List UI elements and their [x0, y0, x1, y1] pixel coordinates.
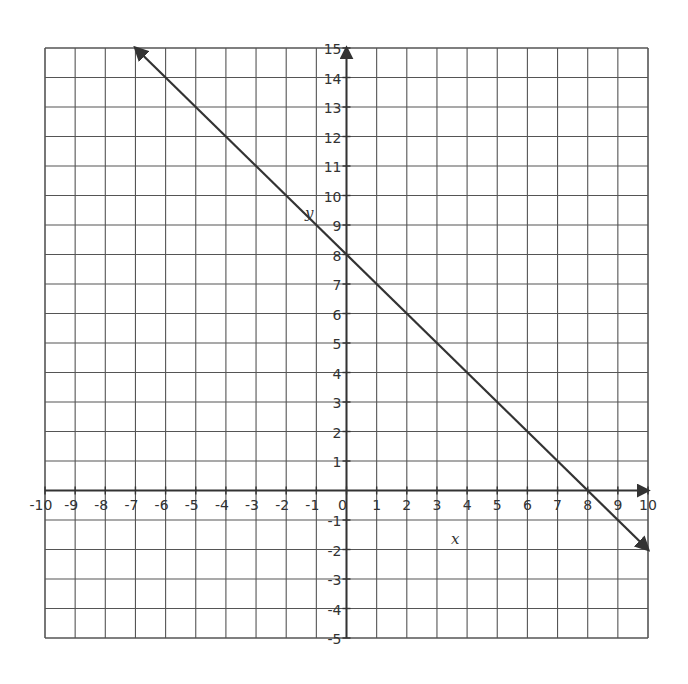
y-tick-label: 13 — [324, 100, 342, 116]
origin-label: 0 — [338, 497, 347, 513]
y-tick-label: -1 — [328, 513, 342, 529]
x-tick-label: 3 — [432, 497, 441, 513]
x-tick-label: -10 — [30, 497, 53, 513]
x-tick-label: -5 — [185, 497, 199, 513]
y-tick-label: 2 — [333, 425, 342, 441]
y-tick-label: -3 — [328, 572, 342, 588]
y-tick-label: 15 — [324, 41, 342, 57]
y-tick-label: 5 — [333, 336, 342, 352]
x-tick-label: 9 — [613, 497, 622, 513]
y-tick-label: 10 — [324, 189, 342, 205]
x-tick-label: -9 — [64, 497, 78, 513]
x-tick-label: -7 — [124, 497, 138, 513]
x-axis-tick-labels: -10-9-8-7-6-5-4-3-2-1123456789100 — [30, 497, 657, 513]
x-tick-label: 4 — [463, 497, 472, 513]
x-tick-label: -1 — [305, 497, 319, 513]
y-tick-label: 11 — [324, 159, 342, 175]
y-tick-label: 8 — [333, 248, 342, 264]
x-axis-label: x — [451, 530, 460, 548]
y-tick-label: -2 — [328, 543, 342, 559]
y-tick-label: 3 — [333, 395, 342, 411]
y-tick-label: 4 — [333, 366, 342, 382]
x-tick-label: -6 — [155, 497, 169, 513]
y-tick-label: 1 — [333, 454, 342, 470]
y-tick-label: -5 — [328, 631, 342, 647]
y-tick-label: 12 — [324, 130, 342, 146]
x-tick-label: 10 — [639, 497, 657, 513]
y-tick-label: 7 — [333, 277, 342, 293]
x-tick-label: 5 — [493, 497, 502, 513]
plotted-line — [135, 48, 648, 550]
y-tick-label: 6 — [333, 307, 342, 323]
x-tick-label: 6 — [523, 497, 532, 513]
x-tick-label: 1 — [372, 497, 381, 513]
x-tick-label: 8 — [583, 497, 592, 513]
x-tick-label: -2 — [275, 497, 289, 513]
coordinate-graph: -10-9-8-7-6-5-4-3-2-1123456789100 -5-4-3… — [0, 0, 688, 684]
y-axis-tick-labels: -5-4-3-2-1123456789101112131415 — [324, 41, 342, 647]
y-tick-label: -4 — [328, 602, 342, 618]
x-tick-label: 2 — [402, 497, 411, 513]
x-tick-label: 7 — [553, 497, 562, 513]
x-tick-label: -8 — [94, 497, 108, 513]
y-axis-label: y — [304, 204, 314, 222]
y-tick-label: 14 — [324, 71, 342, 87]
y-tick-label: 9 — [333, 218, 342, 234]
x-tick-label: -4 — [215, 497, 229, 513]
line-series — [135, 48, 648, 550]
x-tick-label: -3 — [245, 497, 259, 513]
